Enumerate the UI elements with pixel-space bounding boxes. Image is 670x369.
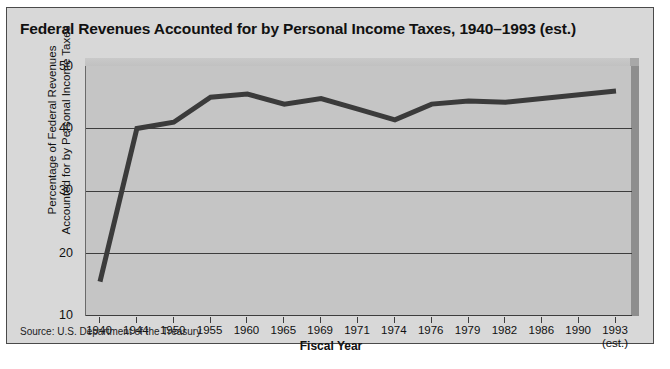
- y-tick-label-50: 50: [47, 59, 73, 73]
- y-tick-label-10: 10: [47, 308, 73, 322]
- x-tick-mark-1986: [541, 317, 542, 323]
- source-note: Source: U.S. Department of the Treasury: [20, 326, 201, 337]
- x-tick-mark-1993: [615, 317, 616, 323]
- x-tick-mark-1974: [394, 317, 395, 323]
- panel-top-bevel: [85, 58, 631, 66]
- x-tick-mark-1971: [357, 317, 358, 323]
- y-tick-label-30: 30: [47, 183, 73, 197]
- chart-figure: Federal Revenues Accounted for by Person…: [6, 7, 654, 344]
- x-tick-mark-1990: [578, 317, 579, 323]
- x-tick-mark-1944: [136, 317, 137, 323]
- x-tick-mark-1940: [99, 317, 100, 323]
- x-tick-mark-1979: [468, 317, 469, 323]
- x-tick-mark-1950: [173, 317, 174, 323]
- y-tick-label-20: 20: [47, 246, 73, 260]
- x-axis-title: Fiscal Year: [7, 339, 655, 353]
- plot-area: [85, 66, 631, 316]
- x-tick-mark-1965: [283, 317, 284, 323]
- panel-corner-bevel: [630, 58, 639, 66]
- y-tick-label-40: 40: [47, 121, 73, 135]
- y-axis-tick-labels: 50 40 30 20 10: [45, 8, 73, 345]
- data-series-line: [86, 66, 632, 316]
- x-tick-mark-1976: [431, 317, 432, 323]
- x-tick-mark-1982: [504, 317, 505, 323]
- chart-title: Federal Revenues Accounted for by Person…: [20, 20, 630, 38]
- x-tick-mark-1955: [210, 317, 211, 323]
- plot-panel: [85, 58, 639, 316]
- x-tick-mark-1969: [320, 317, 321, 323]
- x-tick-mark-1960: [246, 317, 247, 323]
